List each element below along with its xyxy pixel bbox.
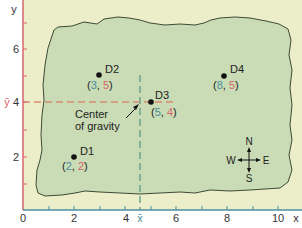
compass-south: S [246,173,253,184]
point-marker [96,72,102,78]
cog-label-line2: of gravity [75,120,120,132]
y-tick-label: 4 [13,96,19,108]
x-axis-label: x [293,212,299,224]
point-label: D4 [230,63,244,75]
compass-north: N [245,136,252,147]
y-axis-label: y [11,3,17,15]
x-tick-label: 4 [123,212,129,224]
point-marker [148,99,154,105]
y-bar-label: ȳ [4,96,10,108]
x-tick-label: 2 [71,212,77,224]
x-bar-label: x̄ [137,212,143,224]
compass-east: E [263,155,270,166]
point-marker [221,73,227,79]
point-coords: (2, 2) [62,160,88,172]
point-coords: (8, 5) [213,79,239,91]
x-tick-label: 0 [20,212,26,224]
center-of-gravity-diagram: y 6 4 ȳ 2 0 2 4 x̄ 6 8 10 x D1 (2, 2) D2… [0,0,302,228]
y-tick-label: 6 [13,43,19,55]
x-tick-label: 10 [272,212,284,224]
point-coords: (3, 5) [87,79,113,91]
x-tick-label: 6 [173,212,179,224]
cog-label-line1: Center [75,108,108,120]
x-tick-label: 8 [224,212,230,224]
point-label: D3 [155,89,169,101]
point-marker [71,154,77,160]
point-coords: (5, 4) [151,106,177,118]
y-tick-label: 2 [13,151,19,163]
compass-west: W [226,155,236,166]
point-label: D1 [80,145,94,157]
point-label: D2 [105,63,119,75]
